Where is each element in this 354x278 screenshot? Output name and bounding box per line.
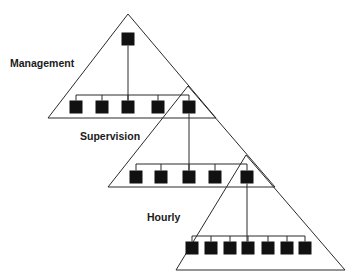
tier-triangle xyxy=(176,155,345,270)
member-box xyxy=(186,242,199,255)
member-box xyxy=(183,171,196,184)
supervision-label: Supervision xyxy=(80,130,140,142)
member-box xyxy=(281,242,294,255)
member-box xyxy=(122,101,135,114)
member-box xyxy=(155,171,168,184)
member-box xyxy=(299,242,312,255)
tier-hourly xyxy=(176,155,345,270)
hourly-label: Hourly xyxy=(147,211,180,223)
member-box xyxy=(205,242,218,255)
member-box xyxy=(152,101,165,114)
org-hierarchy-diagram: Management Supervision Hourly xyxy=(0,0,354,278)
management-label: Management xyxy=(10,57,75,69)
member-box xyxy=(242,242,255,255)
top-manager-box xyxy=(122,33,135,46)
member-box xyxy=(96,101,109,114)
member-box xyxy=(70,101,83,114)
member-box xyxy=(130,171,143,184)
member-box xyxy=(241,171,254,184)
member-box xyxy=(209,171,222,184)
member-box xyxy=(262,242,275,255)
member-box xyxy=(224,242,237,255)
member-box xyxy=(183,101,196,114)
